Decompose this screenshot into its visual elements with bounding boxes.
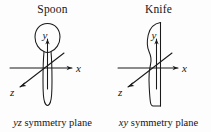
caption-plane-text: symmetry plane xyxy=(128,117,198,128)
y-axis-label: y xyxy=(151,29,157,41)
panel-caption-knife: xy symmetry plane xyxy=(106,117,211,129)
spoon-handle-end xyxy=(45,102,51,105)
z-axis-label: z xyxy=(117,86,123,98)
panel-knife: Knife x xyxy=(106,0,211,132)
spoon-handle-right xyxy=(50,52,52,102)
panel-title-knife: Knife xyxy=(106,3,211,16)
diagram-knife: x y z xyxy=(106,17,211,111)
z-axis-label: z xyxy=(9,86,15,98)
diagram-spoon: x y z xyxy=(0,17,105,111)
panel-spoon: Spoon xyxy=(0,0,105,132)
z-axis-line xyxy=(20,53,64,87)
x-axis-label: x xyxy=(181,62,187,74)
y-axis-label: y xyxy=(42,29,48,41)
panel-caption-spoon: yz symmetry plane xyxy=(0,117,105,129)
caption-plane-text: symmetry plane xyxy=(22,117,92,128)
symmetry-plane-figure: Spoon xyxy=(0,0,211,132)
panel-title-spoon: Spoon xyxy=(0,3,105,16)
z-axis-line xyxy=(128,53,172,87)
x-axis-label: x xyxy=(75,62,81,74)
caption-plane-axes: xy xyxy=(119,117,128,128)
spoon-handle-left xyxy=(43,52,45,102)
caption-plane-axes: yz xyxy=(13,117,22,128)
